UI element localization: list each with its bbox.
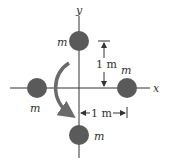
- mass-left: [27, 78, 47, 98]
- vertical-dim-label: 1 m: [96, 58, 117, 71]
- mass-bottom: [69, 125, 89, 145]
- mass-top: [69, 31, 89, 51]
- x-axis-label: x: [153, 82, 160, 95]
- mass-right-label: m: [121, 64, 131, 77]
- mass-top-label: m: [57, 36, 67, 49]
- mass-bottom-label: m: [94, 130, 104, 143]
- mass-diagram: x y m m m m 1 m 1 m: [0, 0, 169, 166]
- mass-left-label: m: [30, 102, 40, 115]
- y-axis-label: y: [75, 4, 83, 17]
- mass-right: [117, 78, 137, 98]
- horizontal-dim-label: 1 m: [91, 107, 112, 120]
